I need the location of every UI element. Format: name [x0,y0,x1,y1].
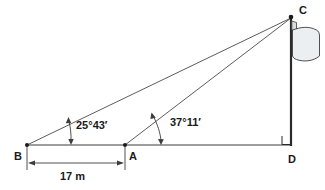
vertex-label-b: B [14,150,22,162]
sight-line-b-c [27,18,291,145]
angle-marker-b [66,117,74,145]
vertex-label-d: D [288,153,296,165]
flag [293,27,320,61]
vertex-label-a: A [129,150,137,162]
angle-label-b: 25°43′ [76,119,108,131]
vertex-label-c: C [299,4,307,16]
angle-label-a: 37°11′ [170,116,201,128]
geometry-figure: B A C D 25°43′ 37°11′ 17 m [0,0,325,190]
dimension-17m [27,146,125,170]
right-angle-marker-d [282,136,291,145]
dimension-label: 17 m [60,170,85,182]
diagram-canvas: B A C D 25°43′ 37°11′ 17 m [0,0,325,190]
sight-line-a-c [125,18,291,145]
vertex-dot-c [289,15,294,20]
